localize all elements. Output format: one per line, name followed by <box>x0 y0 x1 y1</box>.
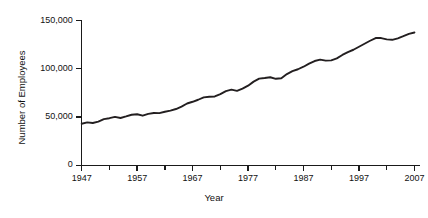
x-tick-label: 1947 <box>58 173 106 183</box>
x-tick-mark-major <box>192 165 193 171</box>
x-tick-label: 1977 <box>224 173 272 183</box>
x-tick-mark-major <box>136 165 137 171</box>
x-tick-label: 1957 <box>113 173 161 183</box>
x-tick-mark-minor <box>386 165 387 170</box>
x-tick-mark-major <box>358 165 359 171</box>
x-tick-mark-major <box>81 165 82 171</box>
y-axis-title: Number of Employees <box>16 33 27 163</box>
x-tick-mark-minor <box>331 165 332 170</box>
x-tick-mark-minor <box>275 165 276 170</box>
y-tick-label: 0 <box>0 159 73 169</box>
y-tick-label: 50,000 <box>0 111 73 121</box>
line-chart: 050,000100,000150,000 194719571967197719… <box>0 0 428 218</box>
x-tick-mark-major <box>414 165 415 171</box>
y-tick-label: 100,000 <box>0 63 73 73</box>
x-tick-mark-major <box>303 165 304 171</box>
y-tick-mark <box>76 20 82 21</box>
y-axis-line <box>81 20 82 166</box>
x-axis-line <box>81 165 420 166</box>
x-tick-label: 1997 <box>335 173 383 183</box>
x-tick-mark-minor <box>109 165 110 170</box>
y-tick-label: 150,000 <box>0 15 73 25</box>
x-tick-label: 2007 <box>390 173 428 183</box>
y-tick-mark <box>76 68 82 69</box>
x-tick-mark-major <box>247 165 248 171</box>
x-tick-label: 1987 <box>280 173 328 183</box>
y-tick-mark <box>76 116 82 117</box>
data-series-line <box>82 32 415 123</box>
x-tick-label: 1967 <box>169 173 217 183</box>
x-axis-title: Year <box>0 192 428 203</box>
x-tick-mark-minor <box>164 165 165 170</box>
x-tick-mark-minor <box>220 165 221 170</box>
plot-area <box>0 0 428 218</box>
